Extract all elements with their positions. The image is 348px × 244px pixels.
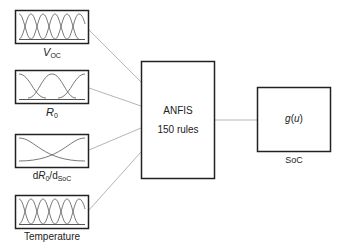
- output-function: g(u): [257, 113, 331, 124]
- connector-temperature: [89, 152, 141, 210]
- label-r0-main: R: [46, 106, 54, 118]
- label-dr0dsoc-mid: /d: [49, 170, 57, 181]
- anfis-title: ANFIS: [141, 105, 215, 116]
- mf-box-dr0dsoc: [16, 135, 89, 168]
- mf-box-r0: [16, 71, 89, 104]
- anfis-rules: 150 rules: [141, 124, 215, 135]
- output-func-name: g: [285, 113, 291, 124]
- label-dr0dsoc: dR0/dSoC: [15, 170, 89, 182]
- mf-box-voc: [16, 11, 89, 44]
- mf-box-temperature: [16, 196, 89, 229]
- label-r0: R0: [15, 106, 89, 119]
- label-temperature: Temperature: [10, 231, 94, 242]
- connector-r0: [89, 88, 141, 106]
- label-voc-sub: OC: [50, 52, 61, 59]
- label-voc: VOC: [15, 46, 89, 59]
- label-dr0dsoc-sub2: SoC: [58, 175, 72, 182]
- label-r0-sub: 0: [54, 112, 58, 119]
- anfis-box: [142, 62, 215, 179]
- connector-voc: [89, 30, 141, 82]
- output-label-soc: SoC: [257, 155, 331, 165]
- connector-dr0dsoc: [89, 128, 141, 150]
- output-func-arg: u: [294, 113, 300, 124]
